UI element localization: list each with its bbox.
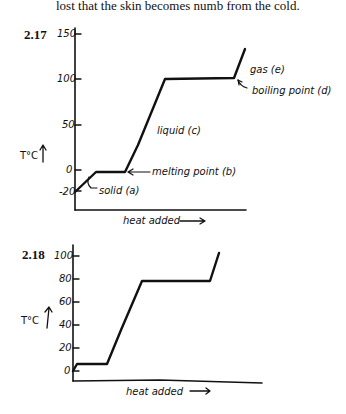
heating-curves-figure: 150 100 50 0 -20 T°C solid (a) melting p… (0, 0, 346, 414)
y-axis-label-2: T°C (20, 315, 39, 326)
tick-100: 100 (54, 250, 73, 261)
label-gas: gas (e) (250, 64, 285, 75)
tick-60: 60 (59, 296, 72, 307)
x-axis-label: heat added (123, 215, 181, 226)
ylabel-arrow-icon (40, 145, 46, 162)
tick-50: 50 (62, 119, 75, 130)
label-solid: solid (a) (99, 185, 139, 196)
tick-100: 100 (57, 73, 76, 84)
tick-150: 150 (57, 28, 76, 39)
y-axis-label: T°C (19, 150, 38, 161)
tick-neg20: -20 (59, 186, 75, 197)
tick-40: 40 (59, 319, 72, 330)
chart-2-17-axes (75, 28, 246, 210)
label-melting-point: melting point (b) (152, 166, 236, 177)
tick-0: 0 (66, 164, 72, 175)
tick-0: 0 (64, 365, 70, 376)
label-liquid: liquid (c) (157, 125, 201, 136)
melting-arrow-icon (128, 169, 150, 175)
xlabel-arrow-icon-2 (190, 388, 210, 394)
ylabel-arrow-icon-2 (45, 307, 52, 328)
label-boiling-point: boiling point (d) (252, 85, 332, 96)
tick-20: 20 (59, 342, 72, 353)
chart-2-18-axes (73, 245, 262, 383)
tick-80: 80 (59, 273, 72, 284)
chart-2-18-curve (73, 253, 219, 371)
xlabel-arrow-icon (180, 218, 205, 224)
x-axis-label-2: heat added (126, 386, 184, 397)
